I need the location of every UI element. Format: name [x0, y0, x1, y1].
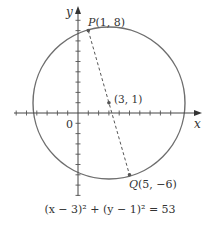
y-axis-arrow-icon	[75, 6, 81, 14]
center-label: (3, 1)	[114, 93, 142, 105]
x-axis-label: x	[194, 117, 201, 131]
circle-diagram: y x 0 P(1, 8) (3, 1) Q(5, −6) (x − 3)² +…	[0, 0, 205, 225]
point-q-coords: (5, −6)	[138, 178, 177, 191]
center-dot	[107, 101, 111, 105]
diagram-canvas: y x 0 P(1, 8) (3, 1) Q(5, −6) (x − 3)² +…	[0, 0, 205, 225]
point-q-dot	[128, 173, 132, 177]
point-p-dot	[87, 29, 91, 33]
x-axis-arrow-icon	[194, 110, 202, 116]
origin-label: 0	[66, 118, 73, 131]
point-p-label: P(1, 8)	[87, 16, 125, 29]
point-p-coords: (1, 8)	[95, 16, 125, 29]
x-axis	[14, 110, 202, 116]
y-axis-label: y	[65, 5, 73, 19]
circle-equation: (x − 3)² + (y − 1)² = 53	[44, 203, 175, 216]
point-q-letter: Q	[129, 178, 138, 191]
point-q-label: Q(5, −6)	[129, 178, 177, 191]
